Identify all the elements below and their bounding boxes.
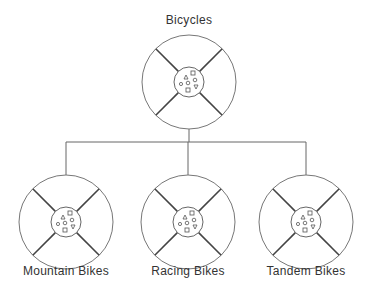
child-wheel-node-2 — [259, 175, 353, 269]
root-label: Bicycles — [166, 13, 212, 27]
child-wheel-node-1 — [141, 175, 235, 269]
child-label-tandem-bikes: Tandem Bikes — [267, 264, 346, 278]
tree-connectors — [66, 129, 306, 175]
wheel-nodes — [19, 35, 353, 269]
diagram-canvas — [0, 0, 372, 295]
child-label-mountain-bikes: Mountain Bikes — [23, 264, 109, 278]
root-wheel-node — [142, 35, 236, 129]
child-wheel-node-0 — [19, 175, 113, 269]
child-label-racing-bikes: Racing Bikes — [151, 264, 225, 278]
